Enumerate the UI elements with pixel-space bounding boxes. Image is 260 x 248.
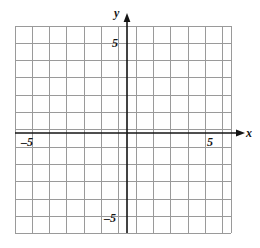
x-axis-tick-label-negative-5: –5	[21, 136, 33, 148]
y-axis-tick-label-negative-5: –5	[104, 212, 116, 224]
y-axis-arrowhead	[124, 13, 131, 22]
coordinate-plane-svg	[0, 0, 260, 248]
y-axis-tick-label-positive-5: 5	[112, 37, 118, 49]
grid-lines-horizontal	[15, 26, 231, 233]
x-axis-label: x	[246, 127, 252, 139]
coordinate-grid-figure: y x 5 –5 5 –5	[0, 0, 260, 248]
x-axis-arrowhead	[236, 130, 245, 137]
x-axis-tick-label-positive-5: 5	[207, 136, 213, 148]
y-axis-label: y	[114, 7, 119, 19]
